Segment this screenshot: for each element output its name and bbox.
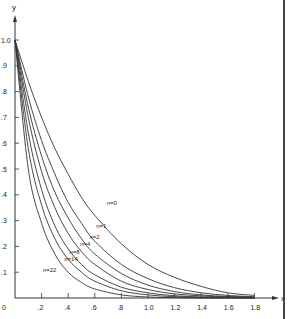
y-axis-label: y (12, 3, 16, 12)
curve-n-4 (15, 40, 254, 298)
y-tick-label: .7 (1, 114, 7, 121)
x-tick-label: .8 (117, 304, 123, 311)
line-chart: yx0.1.2.3.4.5.6.7.8.91.0.2.4.6.81.01.21.… (0, 0, 289, 319)
y-tick-label: 1.0 (1, 37, 11, 44)
x-tick-label: .6 (91, 304, 97, 311)
y-tick-label: .6 (1, 140, 7, 147)
curve-label-n-4: n=4 (80, 241, 91, 247)
curves (15, 40, 254, 298)
curve-label-n-14: n=14 (64, 256, 78, 262)
x-tick-label: 1.0 (144, 304, 154, 311)
curve-label-n-2: n=2 (89, 234, 100, 240)
x-tick-label: 1.4 (197, 304, 207, 311)
curve-n-0 (15, 40, 254, 295)
origin-label: 0 (2, 304, 6, 311)
curve-label-n-22: n=22 (43, 267, 57, 273)
curve-label-n-0: n=0 (107, 200, 118, 206)
x-tick-label: 1.6 (224, 304, 234, 311)
x-tick-label: .2 (38, 304, 44, 311)
curve-label-n-1: n=1 (96, 223, 107, 229)
y-tick-label: .5 (1, 166, 7, 173)
page-border (283, 0, 285, 319)
x-tick-label: 1.8 (250, 304, 260, 311)
curve-n-8 (15, 40, 254, 298)
y-tick-label: .8 (1, 88, 7, 95)
y-tick-label: .2 (1, 243, 7, 250)
y-axis-arrow-icon (13, 15, 17, 22)
y-tick-label: .4 (1, 191, 7, 198)
curve-label-n-8: n=8 (70, 249, 81, 255)
curve-n-1 (15, 40, 254, 297)
y-tick-label: .1 (1, 269, 7, 276)
axes: yx0.1.2.3.4.5.6.7.8.91.0.2.4.6.81.01.21.… (1, 3, 285, 311)
x-tick-label: 1.2 (171, 304, 181, 311)
y-tick-label: .9 (1, 62, 7, 69)
y-tick-label: .3 (1, 217, 7, 224)
curve-n-2 (15, 40, 254, 297)
curve-n-22 (15, 40, 254, 298)
curve-n-14 (15, 40, 254, 298)
x-axis-arrow-icon (272, 296, 279, 300)
x-tick-label: .4 (64, 304, 70, 311)
